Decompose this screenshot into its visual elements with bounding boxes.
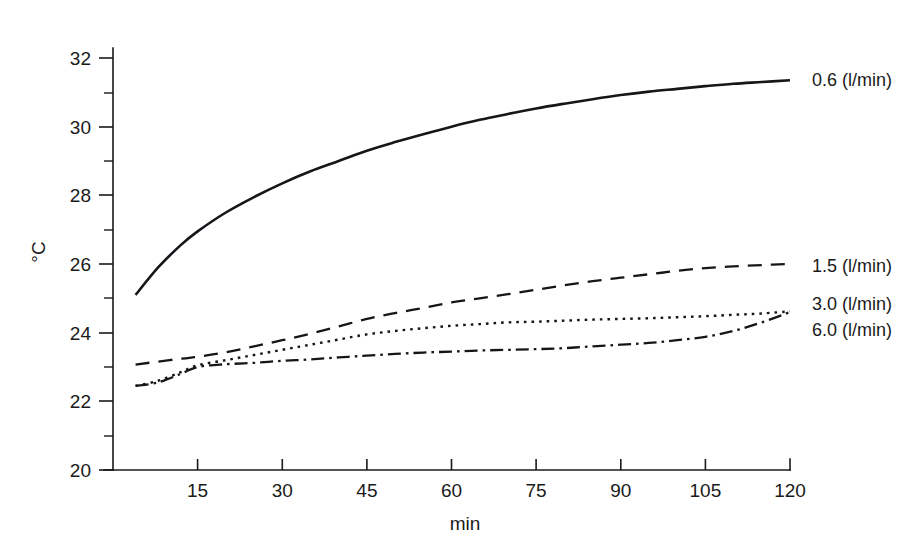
y-tick-label-22: 22 [70,391,91,412]
x-tick-label-15: 15 [187,480,208,501]
x-tick-label-105: 105 [690,480,722,501]
x-tick-label-90: 90 [610,480,631,501]
y-tick-label-20: 20 [70,460,91,481]
y-tick-label-32: 32 [70,48,91,69]
y-tick-label-30: 30 [70,117,91,138]
x-tick-label-60: 60 [441,480,462,501]
y-tick-label-28: 28 [70,185,91,206]
x-tick-label-120: 120 [774,480,806,501]
series-label-0-6: 0.6 (l/min) [812,70,892,90]
series-label-6-0: 6.0 (l/min) [812,320,892,340]
y-axis-title: °C [28,241,49,262]
temperature-vs-time-chart: 32 30 28 26 24 22 20 15 30 45 60 75 90 1… [0,0,919,553]
y-tick-label-24: 24 [70,323,92,344]
y-tick-label-26: 26 [70,254,91,275]
series-label-3-0: 3.0 (l/min) [812,294,892,314]
series-label-1-5: 1.5 (l/min) [812,256,892,276]
x-tick-label-75: 75 [526,480,547,501]
x-tick-label-30: 30 [272,480,293,501]
x-tick-label-45: 45 [356,480,377,501]
x-axis-title: min [450,513,481,534]
